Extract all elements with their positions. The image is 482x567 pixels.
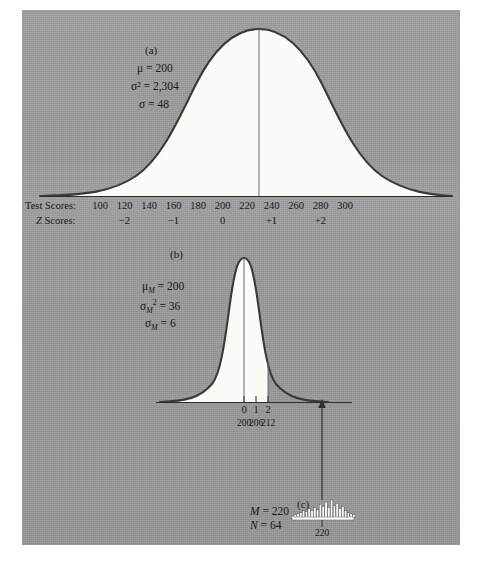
z-score-tick-2: +2 (308, 215, 334, 226)
histogram-bar (305, 512, 307, 517)
histogram-bar (330, 500, 332, 517)
z-score-tick--1: −1 (161, 215, 187, 226)
test-score-tick-180: 180 (185, 200, 211, 211)
histogram-bar (350, 514, 352, 517)
panel-c-axis-label: 220 (309, 528, 335, 538)
test-score-tick-260: 260 (283, 200, 309, 211)
histogram-bar (319, 504, 321, 517)
panel-b-stat-sd: σM = 6 (145, 317, 176, 332)
test-score-tick-140: 140 (136, 200, 162, 211)
test-score-tick-200: 200 (210, 200, 236, 211)
histogram-bar (347, 513, 349, 517)
panel-c-stat-mean: M = 220 (250, 505, 289, 517)
histogram-bar (342, 506, 344, 517)
histogram-bar (294, 515, 296, 517)
histogram-bar (339, 509, 341, 518)
panel-c-letter: (c) (297, 498, 309, 510)
panel-a-letter: (a) (145, 44, 157, 56)
panel-b-z-tick-2: 2 (262, 404, 274, 415)
panel-a-stat-mean: μ = 200 (137, 62, 173, 74)
histogram-bar (325, 502, 327, 517)
z-score-tick-1: +1 (259, 215, 285, 226)
panel-b-raw-tick-212: 212 (255, 418, 281, 428)
test-score-tick-120: 120 (112, 200, 138, 211)
z-score-tick-0: 0 (210, 215, 236, 226)
histogram-bar (302, 511, 304, 517)
test-score-tick-160: 160 (161, 200, 187, 211)
histogram-bar (314, 507, 316, 517)
histogram-bar (322, 506, 324, 517)
figure-container: (a) μ = 200 σ² = 2,304 σ = 48 Test Score… (0, 0, 482, 567)
test-score-tick-280: 280 (308, 200, 334, 211)
panel-b-stat-variance: σM2 = 36 (140, 298, 180, 315)
panel-a-stat-sd: σ = 48 (139, 98, 169, 110)
test-score-tick-100: 100 (87, 200, 113, 211)
histogram-bar (336, 503, 338, 517)
histogram-bar (333, 505, 335, 517)
test-score-tick-240: 240 (259, 200, 285, 211)
panel-a-stat-variance: σ² = 2,304 (131, 80, 179, 92)
histogram-bar (328, 507, 330, 517)
histogram-bar (344, 511, 346, 517)
histogram-bar (316, 510, 318, 517)
panel-b-z-tick-0: 0 (238, 404, 250, 415)
panel-b-stat-mean: μM = 200 (142, 280, 184, 295)
z-score-tick--2: −2 (112, 215, 138, 226)
panel-b-z-tick-1: 1 (250, 404, 262, 415)
histogram-bar (311, 511, 313, 517)
histogram-bar (297, 514, 299, 517)
histogram-bar (300, 513, 302, 517)
axis-label-z-scores: Z Scores: (36, 215, 75, 226)
histogram-bars-layer (0, 0, 482, 567)
panel-c-stat-n: N = 64 (250, 519, 281, 531)
test-score-tick-300: 300 (332, 200, 358, 211)
test-score-tick-220: 220 (234, 200, 260, 211)
histogram-bar (353, 515, 355, 517)
panel-b-letter: (b) (170, 248, 183, 260)
axis-label-test-scores: Test Scores: (25, 200, 76, 211)
